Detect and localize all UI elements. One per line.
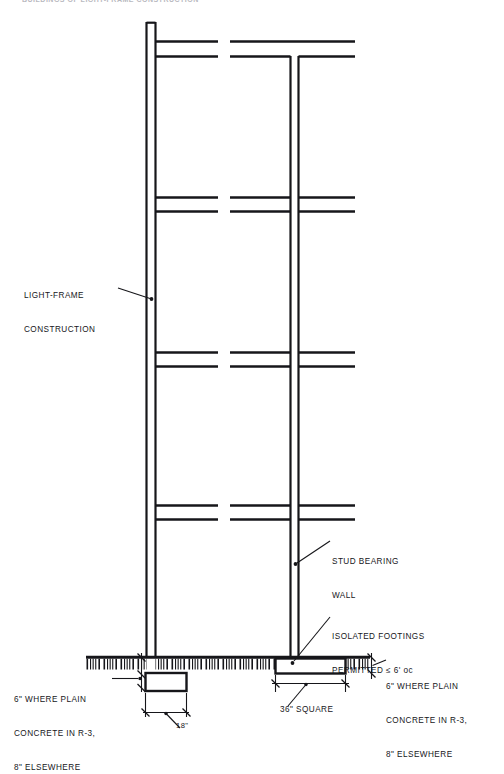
annotation-line: 8" ELSEWHERE xyxy=(386,749,467,760)
annotation-stud-bearing-wall: STUD BEARING WALL xyxy=(332,534,399,612)
annotation-line: 6" WHERE PLAIN xyxy=(386,681,467,692)
annotation-light-frame-construction: LIGHT-FRAME CONSTRUCTION xyxy=(24,268,95,346)
annotation-line: 6" WHERE PLAIN xyxy=(14,694,95,705)
annotation-line: CONSTRUCTION xyxy=(24,324,95,335)
dimension-label-18-inch: 18" xyxy=(176,720,189,731)
annotation-line: 8" ELSEWHERE xyxy=(14,762,95,773)
strip-footing-exterior xyxy=(146,673,187,691)
dimension-label-36-inch-square: 36" SQUARE xyxy=(280,704,333,715)
exterior-bearing-wall xyxy=(147,22,156,658)
interior-bearing-wall xyxy=(291,56,299,658)
annotation-line: LIGHT-FRAME xyxy=(24,290,95,301)
annotation-line: CONCRETE IN R-3, xyxy=(386,715,467,726)
annotation-plain-concrete-left: 6" WHERE PLAIN CONCRETE IN R-3, 8" ELSEW… xyxy=(14,672,95,774)
floor-line-level-3 xyxy=(156,198,356,212)
annotation-line: CONCRETE IN R-3, xyxy=(14,728,95,739)
annotation-line: WALL xyxy=(332,590,399,601)
annotation-line: ISOLATED FOOTINGS xyxy=(332,631,425,642)
leader-light-frame-construction xyxy=(118,288,153,301)
annotation-plain-concrete-right: 6" WHERE PLAIN CONCRETE IN R-3, 8" ELSEW… xyxy=(386,659,467,771)
floor-line-level-1 xyxy=(156,506,356,520)
annotation-line: STUD BEARING xyxy=(332,556,399,567)
floor-line-level-2 xyxy=(156,353,356,367)
